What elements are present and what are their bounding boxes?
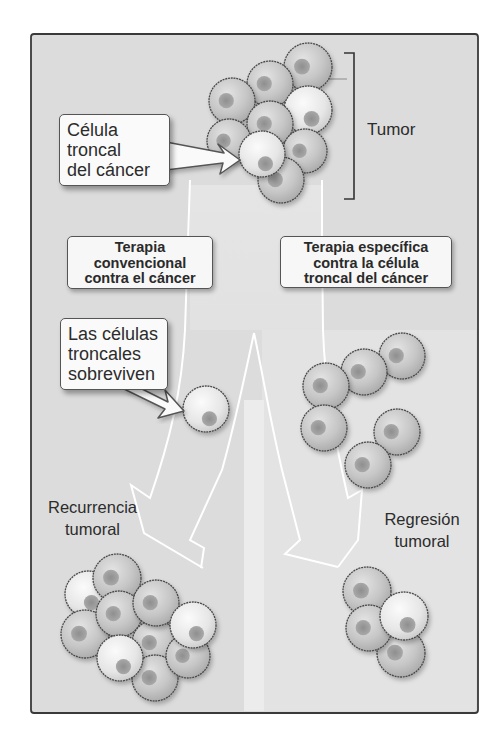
nucleus (106, 606, 121, 621)
targeted-therapy-line-2: contra la célula (285, 256, 447, 272)
nucleus (387, 645, 403, 661)
nucleus (355, 457, 370, 472)
cancer-cell (97, 635, 143, 681)
nucleus (294, 59, 310, 75)
cancer-cell (380, 592, 428, 640)
stem-cell-callout-line-2: troncal (67, 140, 162, 160)
nucleus (313, 378, 328, 393)
regression-label-line-2: tumoral (378, 530, 466, 552)
nucleus (384, 424, 399, 439)
nucleus (142, 635, 157, 650)
survivor-callout-line-1: Las células (68, 324, 160, 344)
nucleus (292, 144, 307, 159)
nucleus (143, 595, 158, 610)
cell-group-survivor (183, 386, 229, 432)
nucleus (175, 649, 190, 664)
nucleus (389, 348, 404, 363)
recurrence-label-line-2: tumoral (42, 518, 143, 540)
recurrence-label-line-1: Recurrencia (42, 496, 143, 518)
nucleus (257, 76, 272, 91)
targeted-therapy-line-3: troncal del cáncer (285, 271, 447, 287)
cancer-cell (345, 442, 391, 488)
nucleus (351, 364, 366, 379)
cancer-cell (303, 363, 349, 409)
survivor-callout-line-2: troncales (68, 344, 160, 364)
nucleus (71, 626, 87, 642)
nucleus (219, 93, 234, 108)
nucleus (258, 156, 273, 171)
cancer-cell (301, 405, 347, 451)
nucleus (84, 595, 99, 610)
nucleus (356, 620, 371, 635)
nucleus (142, 670, 157, 685)
targeted-therapy-box: Terapia específica contra la célula tron… (280, 236, 452, 288)
nucleus (103, 570, 119, 586)
conventional-therapy-box: Terapia convencional contra el cáncer (67, 236, 213, 289)
tumor-label: Tumor (367, 121, 416, 138)
nucleus (202, 411, 217, 426)
conventional-therapy-line-3: contra el cáncer (72, 271, 208, 287)
conventional-therapy-line-1: Terapia (72, 240, 208, 256)
stem-cell-callout-line-3: del cáncer (67, 160, 162, 180)
regression-label-line-1: Regresión (378, 508, 466, 530)
cancer-stem-cell-diagram: Tumor Célula troncal del cáncer Terapia … (0, 0, 502, 742)
cancer-stem-cell (239, 131, 285, 177)
targeted-therapy-line-1: Terapia específica (285, 240, 447, 256)
regression-label: Regresión tumoral (378, 508, 466, 552)
nucleus (353, 583, 369, 599)
survivor-callout-line-3: sobreviven (68, 364, 160, 384)
nucleus (311, 420, 326, 435)
nucleus (257, 116, 272, 131)
survivor-callout: Las células troncales sobreviven (60, 318, 168, 390)
nucleus (189, 626, 204, 641)
conventional-therapy-line-2: convencional (72, 256, 208, 272)
stem-cell-callout: Célula troncal del cáncer (59, 114, 170, 186)
stem-cell-callout-line-1: Célula (67, 120, 162, 140)
nucleus (116, 659, 131, 674)
cancer-cell (170, 602, 216, 648)
column-divider (244, 400, 264, 711)
recurrence-label: Recurrencia tumoral (42, 496, 143, 540)
nucleus (400, 617, 416, 633)
cancer-stem-cell (183, 386, 229, 432)
nucleus (304, 111, 320, 127)
